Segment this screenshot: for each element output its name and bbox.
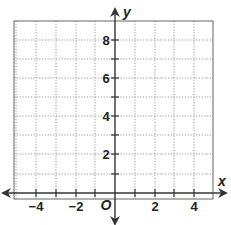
y-tick-label: 6 (102, 71, 109, 86)
x-axis-label: x (217, 173, 227, 189)
y-tick-label: 8 (102, 33, 109, 48)
y-axis-label: y (122, 4, 132, 20)
y-tick-label: 4 (102, 109, 110, 124)
grid-lines (14, 21, 213, 199)
x-tick-label: −2 (69, 199, 84, 214)
coordinate-grid: −4 −2 2 4 O 8 6 4 2 x y (0, 0, 231, 225)
origin-label: O (101, 197, 112, 213)
x-tick-label: 2 (151, 199, 158, 214)
grid-border (14, 21, 213, 199)
x-tick-label: 4 (190, 199, 198, 214)
x-tick-label: −4 (29, 199, 45, 214)
y-tick-label: 2 (102, 147, 109, 162)
